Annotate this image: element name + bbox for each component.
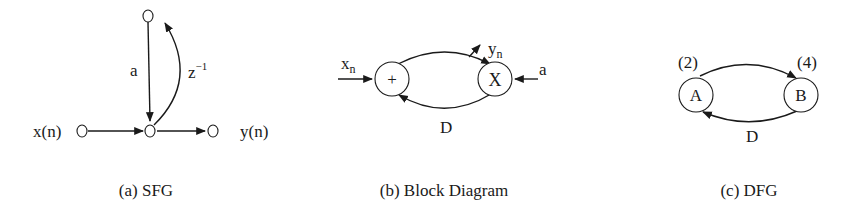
caption-dfg: (c) DFG bbox=[720, 181, 777, 200]
input-label: xn bbox=[341, 54, 356, 76]
feedback-edge bbox=[399, 94, 491, 108]
figure-canvas: a z−1 x(n) y(n) (a) SFG + X xn yn a D (b… bbox=[0, 0, 855, 210]
output-label: yn bbox=[488, 39, 503, 61]
dfg-diagram: A B (2) (4) D (c) DFG bbox=[678, 53, 818, 200]
time-b-label: (4) bbox=[797, 53, 817, 72]
input-node bbox=[77, 125, 87, 137]
node-a-label: A bbox=[690, 86, 703, 105]
top-node bbox=[143, 10, 153, 22]
adder-symbol: + bbox=[387, 70, 397, 89]
forward-edge bbox=[398, 52, 490, 64]
delay-label: z−1 bbox=[188, 60, 207, 82]
output-node bbox=[208, 125, 218, 137]
caption-block: (b) Block Diagram bbox=[380, 181, 508, 200]
delay-edge bbox=[154, 23, 180, 125]
time-a-label: (2) bbox=[678, 53, 698, 72]
gain-edge bbox=[148, 22, 150, 121]
b-to-a-edge bbox=[703, 111, 797, 122]
output-label: y(n) bbox=[240, 122, 268, 141]
sum-node bbox=[145, 125, 155, 137]
coef-label: a bbox=[539, 60, 547, 79]
gain-label: a bbox=[130, 61, 138, 80]
delay-label: D bbox=[746, 127, 758, 146]
caption-sfg: (a) SFG bbox=[119, 181, 173, 200]
block-diagram: + X xn yn a D (b) Block Diagram bbox=[338, 39, 547, 200]
delay-label: D bbox=[440, 118, 452, 137]
output-tap bbox=[469, 45, 480, 57]
multiplier-symbol: X bbox=[489, 70, 502, 90]
sfg-diagram: a z−1 x(n) y(n) (a) SFG bbox=[33, 10, 268, 200]
node-b-label: B bbox=[795, 86, 806, 105]
input-label: x(n) bbox=[33, 122, 61, 141]
a-to-b-edge bbox=[700, 64, 796, 78]
